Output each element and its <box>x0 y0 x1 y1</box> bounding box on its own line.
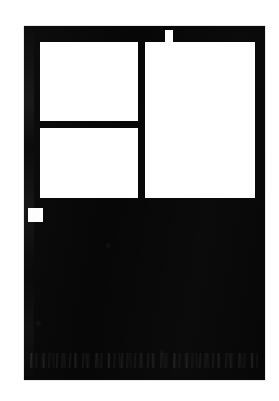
panel-right <box>145 42 255 198</box>
corner-square-marker <box>28 208 43 222</box>
panel-top-left <box>40 42 138 121</box>
panel-bottom-left <box>40 128 138 198</box>
header-tab-marker <box>165 30 173 43</box>
scanned-page <box>0 0 279 401</box>
